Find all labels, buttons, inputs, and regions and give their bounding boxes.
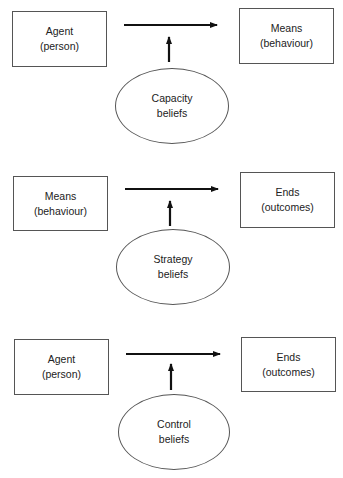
ellipse-sublabel: beliefs (158, 267, 188, 282)
box-sublabel: (outcomes) (261, 200, 314, 215)
box-sublabel: (person) (40, 39, 79, 54)
means-box: Means (behaviour) (13, 176, 108, 231)
box-label: Agent (46, 24, 73, 39)
ellipse-label: Strategy (153, 252, 192, 267)
strategy-beliefs-ellipse: Strategy beliefs (116, 229, 230, 305)
box-sublabel: (person) (42, 367, 81, 382)
ellipse-sublabel: beliefs (159, 432, 189, 447)
box-label: Means (271, 21, 303, 36)
capacity-beliefs-ellipse: Capacity beliefs (115, 68, 229, 144)
ellipse-sublabel: beliefs (157, 106, 187, 121)
box-label: Ends (276, 185, 300, 200)
box-label: Means (45, 189, 77, 204)
ends-box: Ends (outcomes) (240, 172, 335, 228)
means-box: Means (behaviour) (239, 8, 334, 64)
agent-box: Agent (person) (12, 11, 107, 67)
agent-box: Agent (person) (14, 339, 109, 395)
box-sublabel: (behaviour) (260, 36, 313, 51)
control-beliefs-ellipse: Control beliefs (118, 394, 230, 470)
ellipse-label: Control (157, 417, 191, 432)
box-label: Agent (48, 352, 75, 367)
ellipse-label: Capacity (152, 91, 193, 106)
box-sublabel: (behaviour) (34, 204, 87, 219)
ends-box: Ends (outcomes) (241, 337, 336, 392)
box-label: Ends (277, 350, 301, 365)
box-sublabel: (outcomes) (262, 365, 315, 380)
